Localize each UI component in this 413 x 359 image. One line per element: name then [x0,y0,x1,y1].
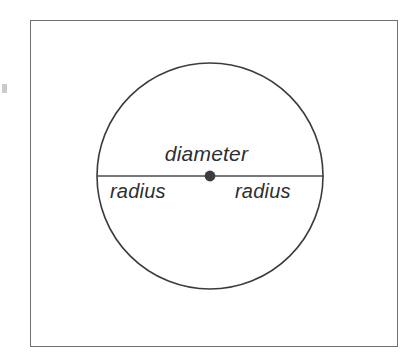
circle-graphic [0,0,413,359]
label-diameter: diameter [0,143,413,164]
label-radius-left: radius [110,181,166,201]
circle-diagram-figure: diameter radius radius [0,0,413,359]
label-radius-right: radius [235,181,291,201]
center-dot [205,171,216,182]
